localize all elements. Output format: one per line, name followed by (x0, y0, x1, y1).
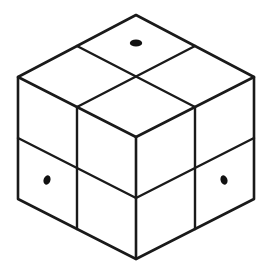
pip-top-back-icon (130, 39, 142, 46)
isometric-cube-figure (0, 0, 269, 269)
figure-canvas (0, 0, 269, 269)
